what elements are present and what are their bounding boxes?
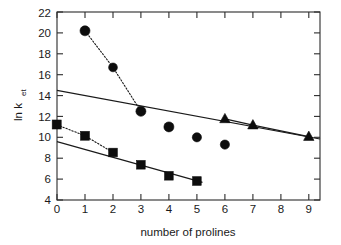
y-axis-title-subscript: et [19, 89, 28, 96]
x-tick-label: 4 [166, 203, 173, 215]
y-tick-label: 16 [38, 69, 51, 81]
x-tick-label: 1 [82, 203, 88, 215]
y-axis-title: ln k et [12, 89, 28, 121]
y-tick-label: 20 [38, 27, 51, 39]
x-axis-title: number of prolines [140, 226, 235, 238]
y-tick-label: 4 [45, 194, 52, 206]
triangle-series-markers [220, 113, 314, 140]
data-point-triangle [220, 113, 230, 122]
data-point-circle [136, 106, 146, 116]
x-tick-labels: 0 1 2 3 4 5 6 7 8 9 [54, 203, 312, 215]
x-axis-title-text: number of prolines [140, 226, 235, 238]
x-tick-label: 0 [54, 203, 60, 215]
data-point-square [81, 131, 90, 140]
lower-fit-line [57, 142, 203, 183]
data-point-square [137, 161, 146, 170]
y-axis-ticks-right [314, 12, 320, 200]
y-tick-label: 14 [38, 90, 51, 102]
circle-series-markers [80, 26, 229, 149]
x-tick-label: 9 [306, 203, 312, 215]
data-point-circle [220, 140, 229, 149]
y-tick-label: 18 [38, 48, 51, 60]
y-tick-label: 22 [38, 7, 51, 19]
x-tick-label: 2 [110, 203, 116, 215]
y-tick-labels: 4 6 8 10 12 14 16 18 20 22 [38, 7, 51, 207]
fit-lines [57, 90, 320, 182]
x-axis-ticks [57, 194, 309, 200]
y-tick-label: 8 [45, 152, 51, 164]
y-tick-label: 6 [45, 173, 51, 185]
data-point-circle [192, 133, 201, 142]
x-tick-label: 3 [138, 203, 144, 215]
x-tick-label: 8 [278, 203, 284, 215]
triangle-series-connectors [225, 119, 309, 137]
triangle-solid-connector [225, 119, 309, 137]
upper-fit-line [57, 90, 320, 139]
y-tick-label: 12 [38, 111, 51, 123]
y-axis-title-text: ln k [12, 103, 24, 121]
data-point-square [193, 177, 202, 186]
x-tick-label: 7 [250, 203, 256, 215]
x-tick-label: 5 [194, 203, 200, 215]
data-point-square [109, 148, 118, 157]
data-point-circle [80, 26, 90, 36]
scatter-plot: 4 6 8 10 12 14 16 18 20 22 0 1 2 3 4 5 6… [0, 0, 341, 245]
data-point-square [52, 120, 61, 129]
y-tick-label: 10 [38, 131, 51, 143]
plot-frame [57, 12, 320, 200]
x-tick-label: 6 [222, 203, 228, 215]
chart-figure: 4 6 8 10 12 14 16 18 20 22 0 1 2 3 4 5 6… [0, 0, 341, 245]
y-axis-ticks [57, 12, 63, 200]
data-point-square [165, 172, 174, 181]
data-point-circle [164, 122, 174, 132]
data-point-circle [109, 63, 118, 72]
x-axis-ticks-top [57, 12, 309, 18]
